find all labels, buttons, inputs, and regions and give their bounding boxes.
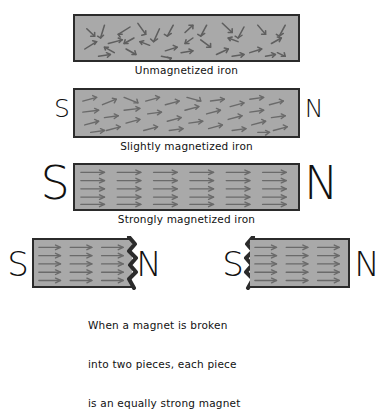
pole-label-north-slightly: N: [304, 96, 324, 121]
pole-label-north-broken-right: N: [354, 247, 380, 281]
aligned-domains-illustration: [75, 165, 298, 209]
bottom-caption-line-1: When a magnet is broken: [88, 319, 318, 332]
bottom-caption-line-2: into two pieces, each piece: [88, 358, 318, 371]
bottom-caption: When a magnet is broken into two pieces,…: [88, 293, 318, 413]
pole-label-north-strongly: N: [304, 160, 338, 206]
partially-aligned-domains-illustration: [75, 90, 298, 136]
bar-strongly-magnetized-iron: [73, 163, 300, 211]
aligned-domains-illustration-left-piece: [34, 240, 132, 286]
bar-broken-piece-left: [32, 238, 132, 288]
pole-label-south-broken-left: S: [6, 247, 30, 281]
pole-label-north-broken-left: N: [136, 247, 162, 281]
caption-slightly-magnetized-iron: Slightly magnetized iron: [73, 140, 300, 152]
caption-strongly-magnetized-iron: Strongly magnetized iron: [73, 213, 300, 225]
aligned-domains-illustration-right-piece: [250, 240, 348, 286]
bottom-caption-line-3: is an equally strong magnet: [88, 397, 318, 410]
pole-label-south-broken-right: S: [221, 247, 245, 281]
pole-label-south-slightly: S: [53, 96, 71, 121]
bar-slightly-magnetized-iron: [73, 88, 300, 138]
bar-broken-piece-right: [250, 238, 350, 288]
pole-label-south-strongly: S: [40, 160, 70, 206]
random-domains-illustration: [75, 16, 298, 60]
caption-unmagnetized-iron: Unmagnetized iron: [73, 64, 300, 76]
bar-unmagnetized-iron: [73, 14, 300, 62]
